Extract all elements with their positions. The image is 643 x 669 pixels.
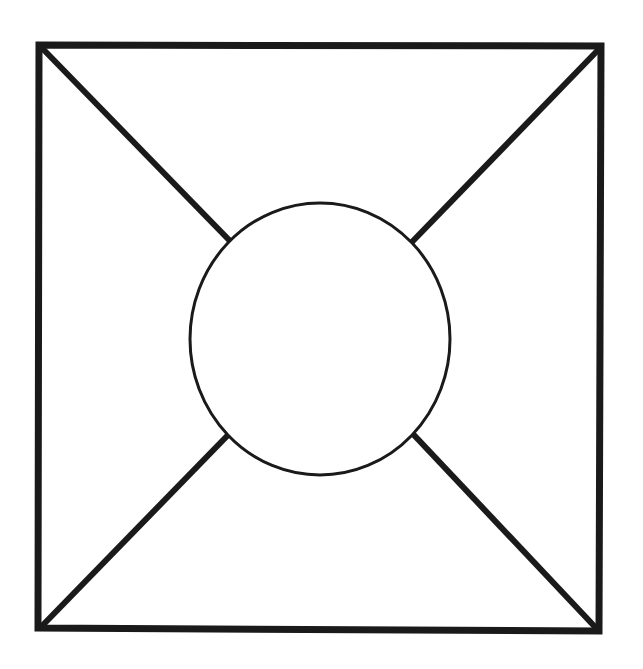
diagram-canvas xyxy=(0,0,643,669)
center-circle xyxy=(190,203,450,475)
